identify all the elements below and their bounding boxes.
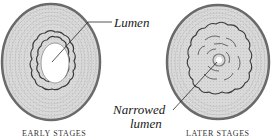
lumen-label: Lumen (114, 16, 149, 29)
early-stages-caption: EARLY STAGES (22, 129, 86, 138)
narrowed-lumen-label-line1: Narrowed (113, 103, 165, 116)
later-stages-caption: LATER STAGES (186, 129, 250, 138)
narrowed-lumen-label-line2: lumen (130, 117, 162, 130)
early-lumen (41, 43, 69, 83)
artery-diagram: Lumen Narrowed lumen EARLY STAGES LATER … (0, 0, 274, 140)
later-stage-vessel (167, 5, 269, 119)
early-stage-vessel (2, 4, 112, 120)
